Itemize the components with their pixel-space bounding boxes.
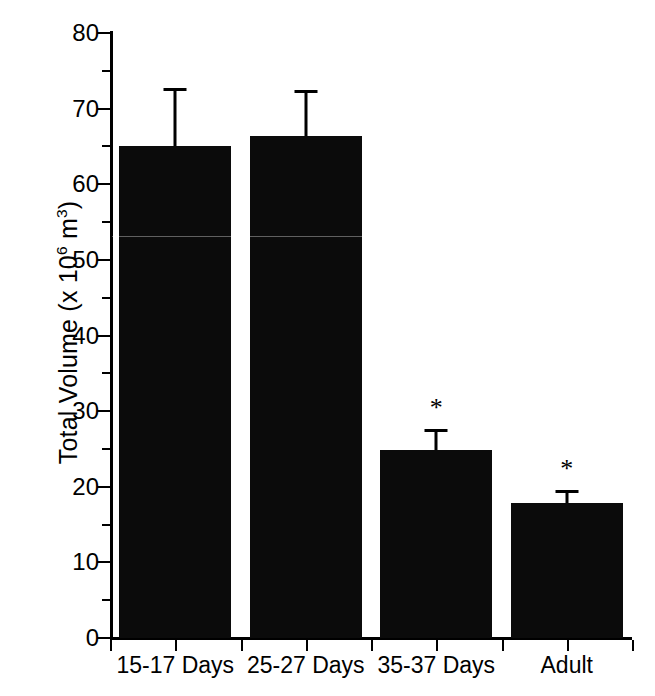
y-tick-minor (102, 372, 110, 374)
y-tick-label: 10 (72, 548, 99, 576)
error-bar-cap (164, 88, 187, 91)
y-tick-minor (102, 221, 110, 223)
y-tick-label: 30 (72, 397, 99, 425)
error-bar-cap (425, 429, 448, 432)
y-tick-label: 20 (72, 473, 99, 501)
y-tick-minor (102, 448, 110, 450)
x-tick (632, 640, 634, 651)
x-category-label: 15-17 Days (116, 652, 234, 679)
bar (511, 503, 623, 638)
x-tick (567, 640, 569, 651)
x-tick (306, 640, 308, 651)
bar-chart: Total Volume (x 106 m3) 0102030405060708… (0, 0, 655, 696)
y-axis-title-suffix: ) (54, 201, 82, 210)
y-tick-minor (102, 524, 110, 526)
error-bar-cap (294, 90, 317, 93)
y-tick-label: 50 (72, 246, 99, 274)
x-tick (502, 640, 504, 651)
error-bar-stem (304, 90, 307, 135)
x-category-label: 35-37 Days (377, 652, 495, 679)
error-bar-cap (555, 490, 578, 493)
y-axis-title-exponent-meters: 3 (53, 209, 70, 218)
bar-series: ** (110, 33, 632, 638)
y-tick-minor (102, 297, 110, 299)
error-bar-stem (174, 88, 177, 146)
y-tick-label: 0 (86, 624, 99, 652)
error-bar-stem (435, 429, 438, 450)
x-tick (110, 640, 112, 651)
significance-asterisk: * (560, 456, 573, 482)
y-axis-title-mid: m (54, 218, 82, 246)
bar (380, 450, 492, 638)
y-axis-title-prefix: Total Volume (x 10 (54, 255, 82, 464)
bar (119, 146, 231, 638)
significance-asterisk: * (430, 395, 443, 421)
y-tick-minor (102, 599, 110, 601)
bar (250, 136, 362, 638)
y-tick-label: 70 (72, 95, 99, 123)
x-tick (241, 640, 243, 651)
y-tick-minor (102, 145, 110, 147)
x-category-label: 25-27 Days (247, 652, 365, 679)
x-tick (436, 640, 438, 651)
y-tick-minor (102, 70, 110, 72)
y-tick-label: 80 (72, 19, 99, 47)
x-tick (371, 640, 373, 651)
y-tick-label: 40 (72, 322, 99, 350)
y-tick-label: 60 (72, 170, 99, 198)
y-axis-title-exponent-volume: 6 (53, 246, 70, 255)
x-category-label: Adult (541, 652, 593, 679)
x-tick (175, 640, 177, 651)
